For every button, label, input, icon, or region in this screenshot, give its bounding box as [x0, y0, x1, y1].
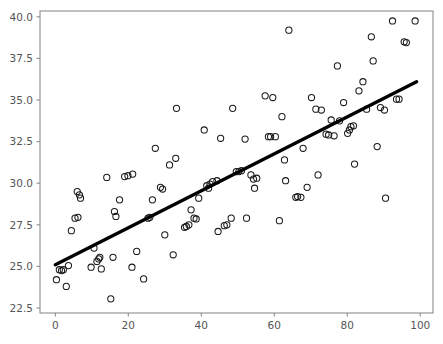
y-tick-label: 22.5: [10, 302, 33, 314]
x-tick-label: 80: [341, 319, 354, 331]
x-tick-label: 0: [52, 319, 59, 331]
y-tick-label: 35.0: [10, 94, 33, 106]
x-tick-label: 60: [268, 319, 281, 331]
y-tick-label: 32.5: [10, 135, 33, 147]
y-tick-label: 37.5: [10, 52, 33, 64]
x-tick-label: 20: [122, 319, 135, 331]
y-tick-label: 27.5: [10, 219, 33, 231]
x-tick-label: 40: [195, 319, 208, 331]
y-tick-label: 40.0: [10, 11, 33, 23]
plot-canvas: 02040608010022.525.027.530.032.535.037.5…: [0, 0, 443, 344]
x-tick-label: 100: [410, 319, 430, 331]
y-tick-label: 30.0: [10, 177, 33, 189]
y-tick-label: 25.0: [10, 260, 33, 272]
scatter-plot-figure: 02040608010022.525.027.530.032.535.037.5…: [0, 0, 443, 344]
